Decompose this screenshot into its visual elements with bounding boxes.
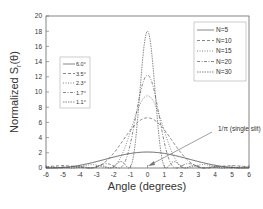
x-tick-label: -1	[128, 171, 134, 178]
right-legend-label: N=10	[216, 37, 232, 44]
right-legend-label: N=20	[216, 58, 232, 65]
annotation-text: 1/π (single slit)	[218, 125, 261, 133]
left-legend-label: 1.1°	[76, 99, 86, 105]
y-tick-label: 16	[35, 43, 43, 50]
left-legend: 6.0°3.5°2.3°1.7°1.1°	[60, 57, 90, 108]
y-tick-label: 0	[38, 164, 42, 171]
x-axis-label: Angle (degrees)	[108, 180, 186, 192]
x-tick-label: 0	[146, 171, 150, 178]
right-legend-label: N=30	[216, 68, 232, 75]
x-axis-ticks: -6-5-4-3-2-10123456	[43, 165, 251, 178]
x-tick-label: 2	[180, 171, 184, 178]
right-legend: N=5N=10N=15N=20N=30	[194, 22, 246, 81]
y-axis-label: Normalized Sr(θ)	[8, 51, 22, 133]
x-tick-label: -2	[111, 171, 117, 178]
x-tick-label: 4	[213, 171, 217, 178]
y-tick-label: 10	[35, 88, 43, 95]
right-legend-label: N=15	[216, 47, 232, 54]
y-tick-label: 6	[38, 119, 42, 126]
y-tick-label: 8	[38, 104, 42, 111]
right-legend-label: N=5	[216, 26, 228, 33]
x-tick-label: -6	[43, 171, 49, 178]
left-legend-label: 1.7°	[76, 90, 86, 96]
y-tick-label: 18	[35, 28, 43, 35]
x-tick-label: 6	[247, 171, 251, 178]
x-tick-label: -3	[94, 171, 100, 178]
y-tick-label: 20	[35, 12, 43, 19]
x-tick-label: -4	[77, 171, 83, 178]
y-tick-label: 12	[35, 73, 43, 80]
x-tick-label: 5	[230, 171, 234, 178]
left-legend-label: 2.3°	[76, 80, 86, 86]
y-axis-ticks: 02468101214161820	[35, 12, 49, 171]
x-tick-label: 3	[196, 171, 200, 178]
left-legend-label: 6.0°	[76, 61, 86, 67]
svg-text:Normalized Sr(θ): Normalized Sr(θ)	[8, 51, 22, 133]
y-tick-label: 4	[38, 134, 42, 141]
left-legend-label: 3.5°	[76, 71, 86, 77]
x-tick-label: -5	[60, 171, 66, 178]
x-tick-label: 1	[163, 171, 167, 178]
y-tick-label: 14	[35, 58, 43, 65]
y-tick-label: 2	[38, 149, 42, 156]
diffraction-chart: -6-5-4-3-2-10123456 02468101214161820 6.…	[0, 0, 263, 209]
